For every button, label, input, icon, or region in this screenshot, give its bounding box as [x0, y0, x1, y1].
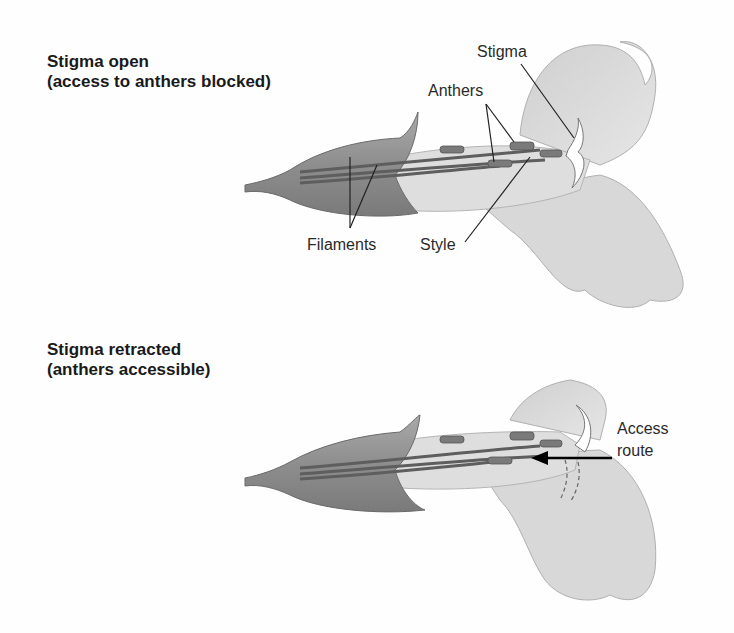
label-access-route: Access route	[617, 420, 669, 460]
diagram-canvas: Stigma open (access to anthers blocked) …	[0, 0, 734, 633]
label-style: Style	[420, 236, 456, 254]
panel-1-heading: Stigma open (access to anthers blocked)	[47, 52, 271, 92]
panel-2-heading-line1: Stigma retracted	[47, 340, 210, 360]
label-access-line2: route	[617, 442, 669, 460]
panel-1-heading-line1: Stigma open	[47, 52, 271, 72]
panel-1-heading-line2: (access to anthers blocked)	[47, 72, 271, 92]
label-access-line1: Access	[617, 420, 669, 438]
panel-2-heading-line2: (anthers accessible)	[47, 360, 210, 380]
flower-illustrations	[0, 0, 734, 633]
panel-2-heading: Stigma retracted (anthers accessible)	[47, 340, 210, 380]
label-stigma: Stigma	[477, 43, 527, 61]
label-anthers: Anthers	[428, 82, 483, 100]
flower-stigma-retracted	[245, 380, 656, 600]
label-filaments: Filaments	[307, 236, 376, 254]
